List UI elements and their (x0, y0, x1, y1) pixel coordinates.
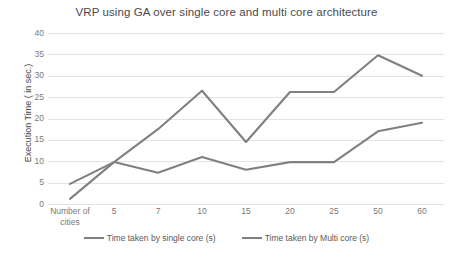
y-tick-label: 40 (22, 29, 44, 38)
x-tick-label: 10 (180, 206, 224, 217)
y-tick-label: 25 (22, 93, 44, 102)
y-tick-label: 20 (22, 114, 44, 123)
x-tick-label: 60 (400, 206, 444, 217)
legend-entry-2[interactable]: Time taken by Multi core (s) (242, 233, 370, 243)
x-tick-label: 20 (268, 206, 312, 217)
x-tick-label: 7 (136, 206, 180, 217)
gridline (48, 204, 444, 205)
chart-legend: Time taken by single core (s)Time taken … (0, 233, 453, 243)
series-lines (48, 33, 444, 204)
legend-entry-1[interactable]: Time taken by single core (s) (84, 233, 216, 243)
x-tick-label: 15 (224, 206, 268, 217)
chart-title: VRP using GA over single core and multi … (0, 6, 453, 18)
line-chart: VRP using GA over single core and multi … (0, 0, 453, 259)
y-tick-label: 35 (22, 50, 44, 59)
plot-area (48, 33, 444, 204)
x-axis-tick-labels: Number of cities57101520255060 (48, 206, 444, 232)
y-axis-tick-labels: 0510152025303540 (22, 0, 44, 259)
x-tick-label: 50 (356, 206, 400, 217)
y-tick-label: 30 (22, 71, 44, 80)
x-tick-label: 5 (92, 206, 136, 217)
legend-label: Time taken by single core (s) (107, 233, 216, 243)
legend-label: Time taken by Multi core (s) (265, 233, 370, 243)
legend-line-icon (84, 237, 104, 239)
y-tick-label: 10 (22, 157, 44, 166)
x-tick-label: Number of cities (48, 206, 92, 227)
series-line-2 (70, 123, 422, 199)
legend-line-icon (242, 237, 262, 239)
y-tick-label: 0 (22, 200, 44, 209)
x-tick-label: 25 (312, 206, 356, 217)
y-tick-label: 15 (22, 135, 44, 144)
y-tick-label: 5 (22, 178, 44, 187)
